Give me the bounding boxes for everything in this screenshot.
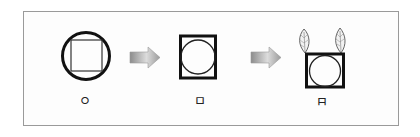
arrow-right-icon xyxy=(130,47,160,68)
stage-label: ㅁ xyxy=(185,93,215,109)
stage-label: ㅇ xyxy=(70,93,100,109)
leaf-icon xyxy=(336,28,345,53)
circle-square-shape xyxy=(63,33,110,80)
square-circle-shape xyxy=(181,36,216,78)
stage-label: ㅂ xyxy=(307,93,337,109)
arrow-right-icon xyxy=(251,47,281,68)
leaf-icon xyxy=(300,29,309,53)
diagram-canvas xyxy=(0,0,420,137)
square-circle-leaves-shape xyxy=(307,54,344,87)
